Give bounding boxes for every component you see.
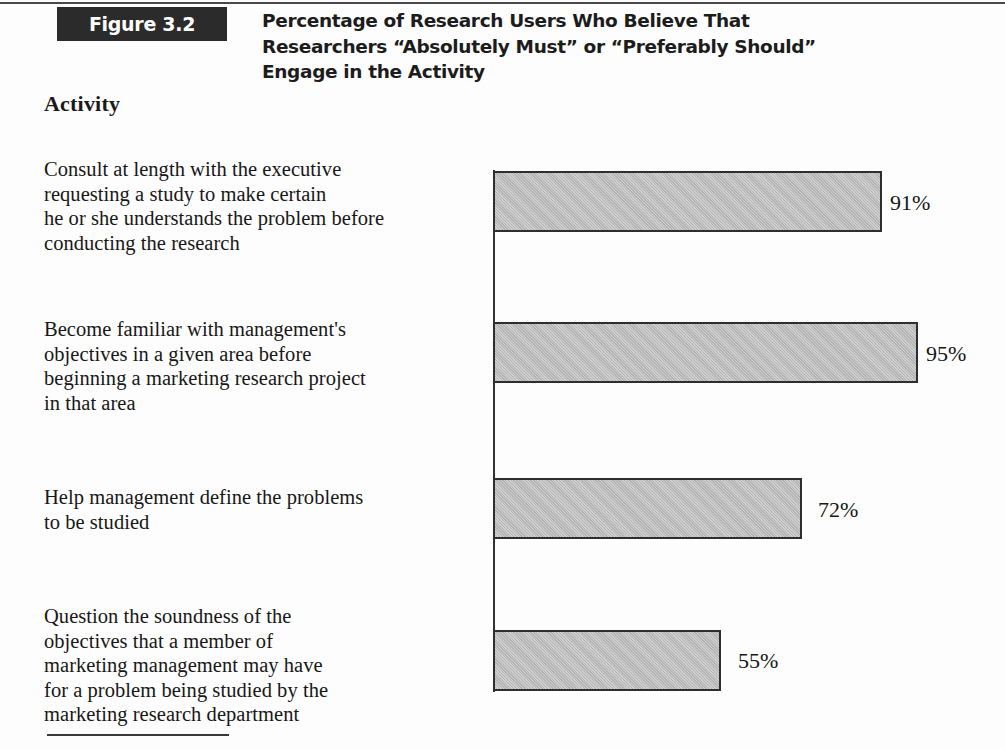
bar-label-4-line-1: Question the soundness of the xyxy=(44,604,474,629)
bar-value-1: 91% xyxy=(890,190,930,216)
figure-title: Percentage of Research Users Who Believe… xyxy=(262,8,962,85)
bar-2 xyxy=(493,322,918,383)
bar-label-2: Become familiar with management's object… xyxy=(44,317,474,415)
bar-label-1: Consult at length with the executive req… xyxy=(44,157,474,255)
bar-label-3-line-2: to be studied xyxy=(44,510,474,535)
activity-axis-heading: Activity xyxy=(44,91,120,117)
figure-title-line-2: Researchers “Absolutely Must” or “Prefer… xyxy=(262,34,962,60)
footnote-divider-rule xyxy=(47,734,229,736)
bar-label-4-line-5: marketing research department xyxy=(44,702,474,727)
bar-label-4-line-4: for a problem being studied by the xyxy=(44,678,474,703)
figure-number-badge: Figure 3.2 xyxy=(57,7,227,41)
bar-label-2-line-4: in that area xyxy=(44,391,474,416)
bar-label-4-line-2: objectives that a member of xyxy=(44,629,474,654)
bar-3 xyxy=(493,478,802,539)
bar-label-1-line-1: Consult at length with the executive xyxy=(44,157,474,182)
bar-label-1-line-2: requesting a study to make certain xyxy=(44,182,474,207)
figure-container: Figure 3.2 Percentage of Research Users … xyxy=(0,0,1005,749)
figure-title-line-3: Engage in the Activity xyxy=(262,59,962,85)
bar-value-3: 72% xyxy=(818,497,858,523)
figure-title-line-1: Percentage of Research Users Who Believe… xyxy=(262,8,962,34)
bar-value-4: 55% xyxy=(738,648,778,674)
bar-1 xyxy=(493,171,882,232)
bar-label-4: Question the soundness of the objectives… xyxy=(44,604,474,727)
bar-label-4-line-3: marketing management may have xyxy=(44,653,474,678)
bar-label-1-line-3: he or she understands the problem before xyxy=(44,206,474,231)
bar-label-2-line-2: objectives in a given area before xyxy=(44,342,474,367)
bar-label-2-line-3: beginning a marketing research project xyxy=(44,366,474,391)
bar-label-2-line-1: Become familiar with management's xyxy=(44,317,474,342)
bar-label-3: Help management define the problems to b… xyxy=(44,485,474,534)
category-axis-line xyxy=(493,170,495,692)
bar-label-3-line-1: Help management define the problems xyxy=(44,485,474,510)
bar-label-1-line-4: conducting the research xyxy=(44,231,474,256)
top-divider-rule xyxy=(0,2,1005,4)
bar-value-2: 95% xyxy=(926,341,966,367)
bar-4 xyxy=(493,630,721,691)
